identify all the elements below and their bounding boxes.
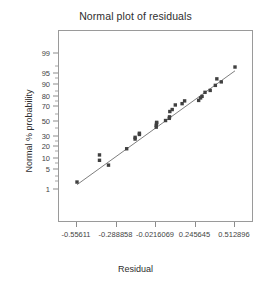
x-tick-label: -0.0216069	[136, 230, 174, 239]
x-tick-label: 0.512896	[218, 230, 249, 239]
data-point-marker	[98, 159, 101, 162]
y-axis: 99959080705030201051	[0, 30, 58, 222]
data-point-marker	[125, 147, 128, 150]
data-point-marker	[208, 89, 211, 92]
normal-probability-plot-figure: Normal plot of residuals Normal % probab…	[0, 0, 271, 288]
x-axis: -0.55611-0.288858-0.02160690.2456450.512…	[58, 222, 253, 248]
x-tick-mark	[116, 222, 117, 227]
y-tick-label: 30	[42, 132, 50, 141]
data-point-marker	[155, 125, 158, 128]
data-area	[59, 31, 252, 221]
data-point-marker	[220, 80, 223, 83]
residual-point-series	[75, 65, 236, 183]
y-tick-label: 10	[42, 154, 50, 163]
y-tick-label: 20	[42, 141, 50, 150]
y-tick-label: 90	[42, 79, 50, 88]
x-tick-label: -0.55611	[61, 230, 90, 239]
x-tick-mark	[76, 222, 77, 227]
data-point-marker	[233, 65, 236, 68]
data-point-marker	[75, 180, 78, 183]
y-tick-label: 5	[46, 165, 50, 174]
plot-canvas	[59, 31, 254, 223]
data-point-marker	[174, 103, 177, 106]
x-axis-title: Residual	[0, 264, 271, 274]
data-point-marker	[215, 77, 218, 80]
data-point-marker	[155, 121, 158, 124]
data-point-marker	[203, 91, 206, 94]
data-point-marker	[107, 163, 110, 166]
plot-frame	[58, 30, 253, 222]
data-point-marker	[214, 84, 217, 87]
y-tick-label: 50	[42, 117, 50, 126]
data-point-marker	[98, 153, 101, 156]
data-point-marker	[171, 108, 174, 111]
y-tick-label: 70	[42, 101, 50, 110]
data-point-marker	[138, 132, 141, 135]
x-tick-label: -0.288858	[99, 230, 133, 239]
y-tick-label: 80	[42, 92, 50, 101]
page-title: Normal plot of residuals	[0, 10, 271, 22]
data-point-marker	[164, 119, 167, 122]
x-tick-mark	[234, 222, 235, 227]
x-tick-mark	[155, 222, 156, 227]
x-tick-label: 0.245645	[179, 230, 210, 239]
data-point-marker	[133, 136, 136, 139]
data-point-marker	[168, 115, 171, 118]
data-point-marker	[200, 95, 203, 98]
y-tick-label: 1	[46, 185, 50, 194]
data-point-marker	[183, 99, 186, 102]
x-tick-mark	[195, 222, 196, 227]
y-tick-label: 99	[42, 49, 50, 58]
y-tick-label: 95	[42, 68, 50, 77]
